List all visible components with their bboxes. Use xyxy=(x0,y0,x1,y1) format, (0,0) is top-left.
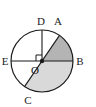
center-point-dot xyxy=(40,59,44,63)
vertex-label-B: B xyxy=(76,55,83,67)
vertex-label-C: C xyxy=(24,94,31,106)
vertex-label-A: A xyxy=(54,15,62,27)
circle-diagram-canvas: A B C D E O xyxy=(0,0,96,107)
geometry-figure: A B C D E O xyxy=(0,0,96,107)
vertex-label-E: E xyxy=(2,55,9,67)
vertex-label-O: O xyxy=(31,64,39,76)
vertex-label-D: D xyxy=(37,15,45,27)
